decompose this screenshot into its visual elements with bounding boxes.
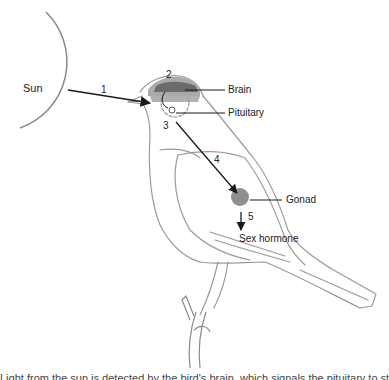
arrow-1 [68,90,150,103]
step-1: 1 [101,85,107,95]
pituitary-label: Pituitary [228,108,264,118]
figure-caption: Light from the sun is detected by the bi… [0,373,389,380]
pituitary-shape [169,107,175,113]
gonad-shape [231,188,249,206]
brain-label: Brain [228,85,251,95]
step-5: 5 [248,212,254,222]
diagram-canvas [0,0,389,380]
step-3: 3 [163,121,169,131]
sex-hormone-label: Sex hormone [239,234,298,244]
arrow-4 [176,122,237,193]
step-2: 2 [166,70,172,80]
sun-outline [20,12,67,128]
sun-label: Sun [23,83,43,94]
gonad-label: Gonad [286,195,316,205]
step-4: 4 [214,155,220,165]
branch [182,296,210,368]
photoperiod-diagram: Sun Brain Pituitary Gonad Sex hormone 1 … [0,0,389,380]
